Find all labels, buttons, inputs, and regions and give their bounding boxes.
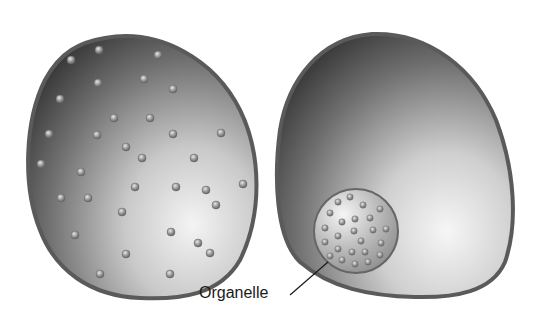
organelle-label: Organelle <box>199 284 268 302</box>
left-cell <box>28 36 256 298</box>
cell-diagram <box>0 0 537 321</box>
organelle <box>314 189 398 273</box>
right-cell <box>277 34 513 297</box>
